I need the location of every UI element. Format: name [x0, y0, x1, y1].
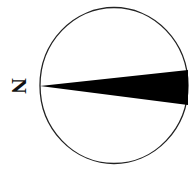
north-label: N — [9, 76, 29, 96]
